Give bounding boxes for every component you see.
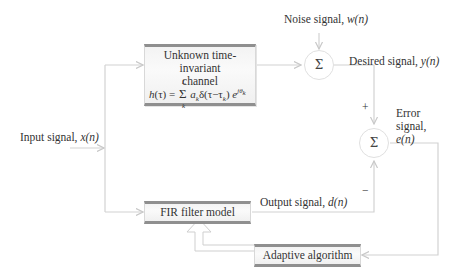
summing-junction-error: Σ: [359, 128, 389, 158]
output-signal-text: Output signal,: [260, 196, 328, 208]
summing-junction-noise: Σ: [304, 50, 334, 80]
error-line2: signal,: [396, 120, 426, 133]
sigma-symbol: Σ: [315, 58, 323, 72]
minus-sign: −: [362, 184, 369, 197]
noise-signal-text: Noise signal,: [284, 13, 347, 25]
sigma-symbol: Σ: [370, 136, 378, 150]
channel-equation: h(τ) = ΣLk akδ(τ−τk) ejθk: [149, 86, 246, 103]
error-line1: Error: [396, 107, 426, 120]
noise-signal-var: w(n): [347, 13, 368, 25]
fir-filter-label: FIR filter model: [160, 206, 235, 218]
input-signal-label: Input signal, x(n): [20, 131, 99, 144]
desired-signal-label: Desired signal, y(n): [349, 55, 439, 68]
desired-signal-text: Desired signal,: [349, 55, 421, 67]
output-signal-label: Output signal, d(n): [260, 196, 347, 209]
channel-title-line1: Unknown time-invariant: [145, 49, 255, 75]
output-signal-var: d(n): [328, 196, 347, 208]
error-var: e(n): [396, 133, 415, 145]
desired-signal-var: y(n): [421, 55, 440, 67]
fir-filter-block: FIR filter model: [144, 201, 251, 224]
adaptive-algorithm-label: Adaptive algorithm: [263, 249, 353, 261]
input-signal-var: x(n): [80, 131, 99, 143]
channel-block: Unknown time-invariant channel h(τ) = ΣL…: [144, 44, 256, 106]
plus-sign: +: [362, 101, 369, 114]
error-signal-label: Error signal, e(n): [396, 107, 426, 146]
input-signal-text: Input signal,: [20, 131, 80, 143]
adaptive-algorithm-block: Adaptive algorithm: [254, 244, 361, 267]
noise-signal-label: Noise signal, w(n): [284, 13, 368, 26]
